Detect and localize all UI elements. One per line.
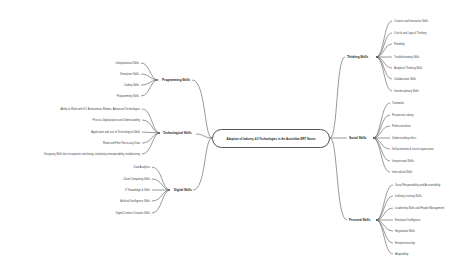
topic-node[interactable]: Simulation Skills	[120, 73, 139, 76]
topic-node[interactable]: Intercultural Skills	[392, 171, 412, 174]
topic-node[interactable]: Emotional Intelligence	[395, 219, 420, 222]
topic-node[interactable]: Negotiation Skills	[395, 230, 415, 233]
topic-node[interactable]: Designing Skills that incorporate simula…	[44, 153, 140, 156]
topic-node[interactable]: Critical and Logical Thinking	[394, 32, 426, 35]
topic-node[interactable]: Creative and Innovative Skills	[394, 20, 428, 23]
topic-node[interactable]: Interdisciplinary Skills	[394, 90, 419, 93]
topic-node[interactable]: Understanding ethics	[392, 137, 416, 140]
branch-personal-skills[interactable]: Personal Skills	[349, 218, 370, 222]
topic-node[interactable]: Data Analytics	[134, 166, 150, 169]
topic-node[interactable]: Ability to Work with IoT, Autonomous Rob…	[61, 108, 141, 111]
topic-node[interactable]: Coding Skills	[124, 84, 139, 87]
topic-node[interactable]: Analytical Thinking Skills	[394, 67, 422, 70]
topic-node[interactable]: IT Knowledge & Skills	[125, 189, 150, 192]
topic-node[interactable]: Social Responsibility and Accountability	[395, 184, 440, 187]
topic-node[interactable]: Interpersonal Skills	[392, 160, 414, 163]
branch-technological-skills[interactable]: Technological Skills	[163, 131, 192, 135]
topic-node[interactable]: Application and use of Technological Ski…	[91, 131, 140, 134]
topic-node[interactable]: Artificial Intelligence Skills	[120, 200, 150, 203]
topic-node[interactable]: Adaptability	[395, 253, 408, 256]
topic-node[interactable]: Lifelong Learning Skills	[395, 195, 422, 198]
topic-node[interactable]: Digital Content Creation Skills	[116, 212, 150, 215]
topic-node[interactable]: Professionalism	[392, 125, 410, 128]
topic-node[interactable]: Read and Filter Necessary Data	[103, 142, 140, 145]
topic-node[interactable]: Process Digitalization and Understanding	[93, 119, 140, 122]
central-topic-node[interactable]: Adoption of Industry 4.0 Technologies in…	[212, 129, 330, 148]
topic-node[interactable]: Entrepreneurship	[395, 242, 415, 245]
topic-node[interactable]: Collaboration Skills	[394, 78, 416, 81]
topic-node[interactable]: Teamwork	[392, 102, 404, 105]
topic-node[interactable]: Perspective-taking	[392, 114, 413, 117]
topic-node[interactable]: Cloud Computing Skills	[123, 178, 150, 181]
branch-digital-skills[interactable]: Digital Skills	[174, 188, 192, 192]
branch-programming-skills[interactable]: Programming Skills	[162, 78, 190, 82]
topic-node[interactable]: Programming Skills	[117, 95, 139, 98]
central-topic-label: Adoption of Industry 4.0 Technologies in…	[226, 137, 315, 141]
topic-node[interactable]: Flexibility	[394, 43, 405, 46]
topic-node[interactable]: Self-promotion & social organisation	[392, 148, 434, 151]
topic-node[interactable]: Troubleshooting Skills	[394, 56, 419, 59]
topic-node[interactable]: Leadership Skills and People Management	[395, 207, 444, 210]
topic-node[interactable]: Computational Skills	[116, 62, 140, 65]
branch-social-skills[interactable]: Social Skills	[349, 136, 367, 140]
branch-thinking-skills[interactable]: Thinking Skills	[347, 55, 368, 59]
